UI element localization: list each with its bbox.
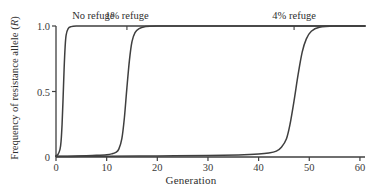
y-axis-title: Frequency of resistance allele (R) <box>8 2 20 174</box>
resistance-allele-frequency-chart: 0102030405060 00.51.0 No refuge1% refuge… <box>0 0 382 193</box>
y-axis-title-symbol: R <box>8 20 20 27</box>
y-axis-title-suffix: ) <box>8 16 20 20</box>
axis-lines <box>56 26 365 157</box>
x-tick-label: 40 <box>253 162 264 173</box>
curve-4-refuge <box>56 26 365 157</box>
y-axis-title-prefix: Frequency of resistance allele ( <box>8 26 20 160</box>
curve-label: 1% refuge <box>105 10 148 21</box>
y-tick-label: 1.0 <box>26 21 50 32</box>
curve-1-refuge <box>56 26 365 156</box>
x-tick-label: 10 <box>101 162 112 173</box>
x-tick-label: 20 <box>152 162 163 173</box>
x-tick-label: 30 <box>203 162 214 173</box>
data-curves <box>56 26 365 157</box>
curve-no-refuge <box>56 26 365 156</box>
x-tick-label: 60 <box>355 162 366 173</box>
curve-label: 4% refuge <box>272 10 315 21</box>
y-tick-label: 0.5 <box>26 86 50 97</box>
x-tick-label: 50 <box>304 162 315 173</box>
x-tick-label: 0 <box>53 162 58 173</box>
y-tick-label: 0 <box>26 152 50 163</box>
x-axis-title: Generation <box>0 174 382 186</box>
